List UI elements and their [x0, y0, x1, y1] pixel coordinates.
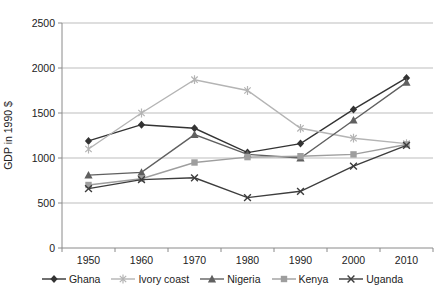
legend-label-uganda: Uganda	[366, 273, 403, 285]
legend-item-uganda: Uganda	[339, 273, 403, 285]
legend-label-ivory-coast: Ivory coast	[138, 273, 189, 285]
diamond-marker	[138, 121, 145, 129]
triangle-marker	[190, 130, 198, 138]
diamond-marker	[350, 105, 357, 113]
square-marker	[350, 151, 356, 157]
series-line-nigeria	[89, 82, 407, 175]
y-tick-label-1500: 1500	[32, 107, 56, 119]
y-tick-label-0: 0	[49, 242, 55, 254]
asterisk-marker	[85, 145, 91, 154]
square-marker	[244, 154, 250, 160]
legend-triangle-marker-icon	[200, 273, 224, 285]
x-tick-label-1960: 1960	[130, 254, 154, 266]
x-tick-label-1990: 1990	[289, 254, 313, 266]
y-tick-label-2500: 2500	[32, 17, 56, 29]
legend-item-ivory-coast: Ivory coast	[111, 273, 189, 285]
legend-label-nigeria: Nigeria	[227, 273, 260, 285]
legend-item-ghana: Ghana	[42, 273, 101, 285]
legend-asterisk-marker-icon	[111, 273, 135, 285]
legend-x-marker-icon	[339, 273, 363, 285]
y-axis-title: GDP in 1990 $	[2, 101, 14, 170]
diamond-marker	[85, 137, 92, 145]
legend-label-kenya: Kenya	[299, 273, 329, 285]
legend-diamond-marker-icon	[42, 273, 66, 285]
square-marker	[280, 276, 286, 282]
legend-label-ghana: Ghana	[69, 273, 101, 285]
y-tick-label-1000: 1000	[32, 152, 56, 164]
y-tick-label-500: 500	[37, 197, 55, 209]
legend-square-marker-icon	[272, 273, 296, 285]
gdp-line-chart-figure: 0500100015002000250019501960197019801990…	[0, 0, 445, 304]
y-tick-label-2000: 2000	[32, 62, 56, 74]
chart-plot-area: 0500100015002000250019501960197019801990…	[0, 0, 445, 273]
square-marker	[191, 159, 197, 165]
x-tick-label-2010: 2010	[395, 254, 419, 266]
x-tick-label-1980: 1980	[236, 254, 260, 266]
chart-legend: GhanaIvory coastNigeriaKenyaUganda	[0, 273, 445, 285]
diamond-marker	[50, 275, 57, 283]
x-tick-label-2000: 2000	[342, 254, 366, 266]
gridlines	[62, 23, 433, 203]
x-tick-label-1950: 1950	[77, 254, 101, 266]
legend-item-nigeria: Nigeria	[200, 273, 260, 285]
square-marker	[297, 153, 303, 159]
triangle-marker	[349, 116, 357, 124]
diamond-marker	[297, 140, 304, 148]
x-tick-label-1970: 1970	[183, 254, 207, 266]
legend-item-kenya: Kenya	[272, 273, 329, 285]
x-marker	[350, 163, 357, 170]
axes: 0500100015002000250019501960197019801990…	[32, 17, 433, 266]
